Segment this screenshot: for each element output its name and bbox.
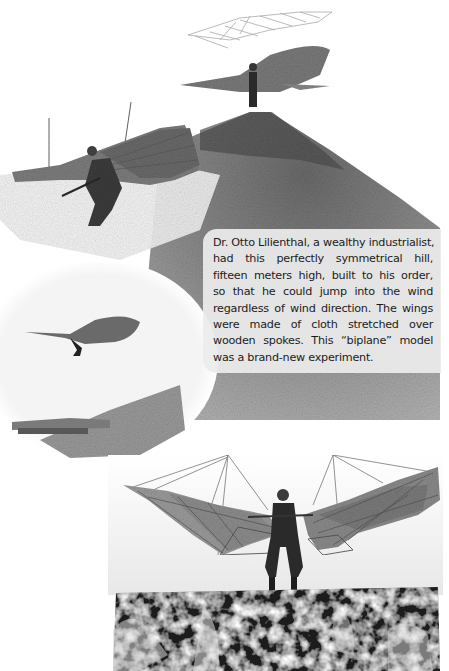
caption-line: wooden spokes. This “biplane” model — [213, 333, 433, 349]
biplane-glider-photo — [108, 455, 443, 671]
caption-line: fifteen meters high, built to his order, — [213, 268, 433, 284]
caption-line: was a brand-new experiment. — [213, 350, 433, 366]
caption-line: so that he could jump into the wind — [213, 284, 433, 300]
rocky-ledge — [113, 587, 440, 671]
glider-wireframe-top — [188, 12, 332, 48]
document-page: Dr. Otto Lilienthal, a wealthy industria… — [0, 0, 449, 671]
caption-line: regardless of wind direction. The wings — [213, 301, 433, 317]
caption-line: Dr. Otto Lilienthal, a wealthy industria… — [213, 235, 433, 251]
caption-text-box: Dr. Otto Lilienthal, a wealthy industria… — [203, 229, 441, 373]
caption-line: had this perfectly symmetrical hill, — [213, 251, 433, 267]
caption-line: were made of cloth stretched over — [213, 317, 433, 333]
glider-pilot-on-hilltop — [180, 46, 330, 107]
